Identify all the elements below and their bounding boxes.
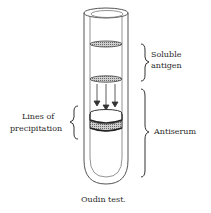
soluble-antigen-brace: [141, 44, 149, 81]
soluble-antigen-label-line2: antigen: [151, 61, 182, 71]
precipitation-brace: [70, 106, 78, 139]
antiserum-brace: [141, 89, 149, 177]
antiserum-label: Antiserum: [154, 127, 196, 137]
precipitation-label-line2: precipitation: [10, 124, 62, 134]
oudin-test-diagram: [0, 0, 211, 213]
diffusion-arrows: [94, 84, 118, 110]
precipitation-label-line1: Lines of: [22, 112, 54, 122]
soluble-antigen-label-line1: Soluble: [151, 50, 181, 60]
figure-caption: Oudin test.: [81, 195, 126, 205]
precipitation-bands: [90, 110, 122, 132]
soluble-antigen-layer: [90, 41, 122, 82]
